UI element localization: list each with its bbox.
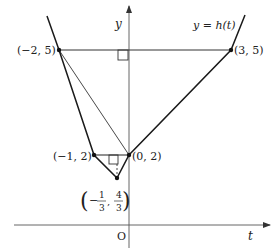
diagram-figure: y t O y = h(t) (−2, 5) (3, 5) (0, 2) (−1…: [0, 0, 279, 251]
curve-label: y = h(t): [192, 19, 236, 32]
svg-text:(: (: [80, 188, 89, 213]
point-c-label: (0, 2): [132, 150, 162, 163]
point-b: [229, 48, 233, 52]
t-axis-label: t: [248, 229, 253, 243]
point-a: [57, 48, 61, 52]
y-axis-label: y: [114, 17, 122, 31]
svg-text:): ): [122, 188, 131, 213]
point-a-label: (−2, 5): [17, 44, 56, 57]
point-d-label: (−1, 2): [53, 150, 92, 163]
svg-text:−: −: [89, 194, 98, 207]
point-d: [92, 153, 96, 157]
point-c: [127, 153, 131, 157]
segment-a-c: [59, 50, 129, 155]
right-angle-mark-top: [118, 50, 128, 60]
svg-text:1: 1: [99, 190, 105, 200]
point-b-label: (3, 5): [234, 44, 264, 57]
svg-text:,: ,: [107, 196, 110, 207]
point-e: [115, 176, 119, 180]
point-e-label: ( − 1 3 , 4 3 ): [80, 188, 131, 213]
svg-text:3: 3: [99, 203, 105, 213]
origin-label: O: [117, 230, 126, 243]
right-angle-mark-bottom: [109, 155, 118, 164]
